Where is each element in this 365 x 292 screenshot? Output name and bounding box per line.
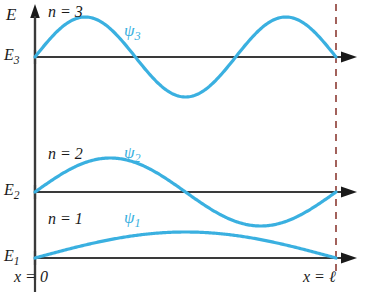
energy-level-letter-n2: E xyxy=(4,181,14,198)
energy-level-label-n2: E2 xyxy=(4,182,20,202)
wavefunction-diagram: E E3 E2 E1 n = 3 n = 2 n = 1 ψ3 ψ2 ψ1 x … xyxy=(0,0,365,292)
wavefunction-subscript-n2: 2 xyxy=(135,151,141,165)
x-end-label: x = ℓ xyxy=(303,269,336,285)
wavefunction-symbol-n1: ψ xyxy=(124,208,135,227)
quantum-number-label-n1: n = 1 xyxy=(48,211,83,227)
energy-level-label-n1: E1 xyxy=(4,248,20,268)
energy-level-subscript-n2: 2 xyxy=(14,189,20,201)
wavefunction-symbol-n3: ψ xyxy=(124,21,135,40)
wavefunction-symbol-n2: ψ xyxy=(124,143,135,162)
level-arrowhead-n1 xyxy=(341,253,357,264)
level-baseline-n2 xyxy=(35,185,357,199)
level-arrowhead-n3 xyxy=(341,52,357,63)
level-arrowhead-n2 xyxy=(341,187,357,198)
wavefunction-curve-n1 xyxy=(35,232,336,258)
energy-level-letter-n3: E xyxy=(4,46,14,63)
energy-axis-label: E xyxy=(6,6,16,23)
energy-level-subscript-n3: 3 xyxy=(14,54,20,66)
wavefunction-label-n1: ψ1 xyxy=(124,209,141,230)
energy-level-label-n3: E3 xyxy=(4,47,20,67)
wavefunction-subscript-n3: 3 xyxy=(135,29,141,43)
level-baseline-n3 xyxy=(35,50,357,64)
quantum-number-label-n2: n = 2 xyxy=(48,146,83,162)
level-baseline-n1 xyxy=(35,251,357,265)
wavefunction-label-n3: ψ3 xyxy=(124,22,141,43)
wavefunction-label-n2: ψ2 xyxy=(124,144,141,165)
x-origin-label: x = 0 xyxy=(14,269,48,285)
energy-axis-arrowhead xyxy=(30,4,40,18)
wavefunction-subscript-n1: 1 xyxy=(135,216,141,230)
quantum-number-label-n3: n = 3 xyxy=(48,4,83,20)
energy-level-subscript-n1: 1 xyxy=(14,255,20,267)
energy-level-letter-n1: E xyxy=(4,247,14,264)
